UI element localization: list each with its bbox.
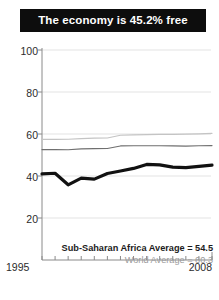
x-tick-end: 2008	[189, 262, 212, 273]
economic-freedom-chart: The economy is 45.2% free 100 80 60 40 2…	[0, 0, 219, 300]
series-subsaharan-average	[42, 146, 212, 150]
series-country-score	[42, 164, 212, 184]
chart-title-text: The economy is 45.2% free	[38, 15, 188, 27]
legend-subsaharan-average: Sub-Saharan Africa Average = 54.5	[0, 242, 213, 254]
x-axis-tick-labels: 1995 2008	[0, 262, 219, 282]
y-axis-ticks	[38, 50, 42, 218]
x-tick-start: 1995	[6, 262, 29, 273]
plot-area: Sub-Saharan Africa Average = 54.5 World …	[0, 38, 219, 278]
chart-title-banner: The economy is 45.2% free	[20, 9, 206, 32]
